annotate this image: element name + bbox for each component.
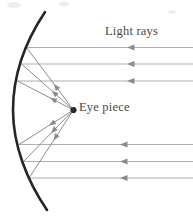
reflected-light-ray [19, 110, 74, 145]
reflected-light-ray [27, 48, 74, 111]
reflected-ray-arrowhead [49, 119, 56, 125]
eye-piece-focal-point-dot [70, 107, 76, 113]
incoming-ray-arrowhead [120, 159, 128, 165]
incoming-ray-arrowhead [120, 142, 128, 148]
incoming-ray-arrowhead [127, 78, 135, 84]
reflected-ray-arrowhead [54, 84, 60, 91]
reflected-ray-arrowhead [50, 98, 57, 104]
light-rays-label: Light rays [105, 25, 158, 38]
scan-artifact-group [7, 2, 176, 15]
scan-artifact [168, 10, 176, 14]
incoming-ray-arrowhead [127, 61, 135, 67]
incoming-ray-arrowhead [127, 45, 135, 51]
parabolic-mirror-curve [13, 12, 47, 210]
reflected-light-ray-group [18, 48, 74, 179]
reflected-light-ray [24, 110, 74, 162]
incoming-ray-arrowhead [120, 175, 128, 181]
optics-diagram-figure: Light rays Eye piece [0, 0, 193, 218]
scan-artifact [59, 2, 69, 7]
reflected-ray-arrowhead [53, 133, 59, 140]
eye-piece-label: Eye piece [79, 101, 130, 114]
scan-artifact [7, 2, 21, 8]
